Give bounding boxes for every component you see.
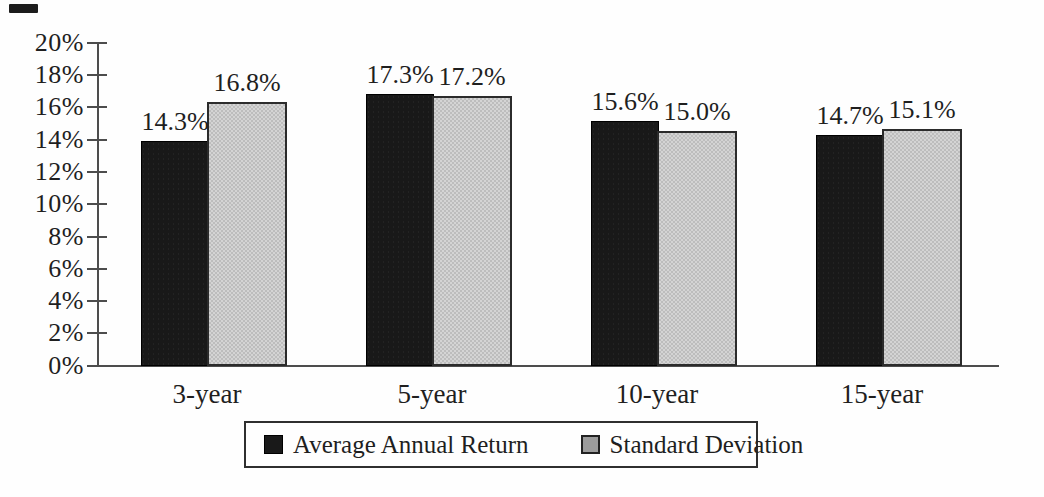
bar-standard-deviation-5-year — [432, 96, 512, 366]
legend-label: Average Annual Return — [293, 432, 529, 458]
y-tick-20- — [87, 42, 107, 44]
y-tick-8- — [87, 236, 107, 238]
y-tick-label-16-: 16% — [14, 94, 84, 120]
y-tick-14- — [87, 139, 107, 141]
bar-standard-deviation-10-year — [657, 131, 737, 367]
y-tick-6- — [87, 268, 107, 270]
y-tick-label-6-: 6% — [14, 256, 84, 282]
legend-item-average-annual-return: Average Annual Return — [264, 432, 529, 458]
bar-average-annual-return-5-year — [366, 94, 434, 366]
y-tick-label-20-: 20% — [14, 30, 84, 56]
y-tick-label-12-: 12% — [14, 159, 84, 185]
y-tick-2- — [87, 332, 107, 334]
bar-standard-deviation-15-year — [882, 129, 962, 366]
legend-label: Standard Deviation — [610, 432, 804, 458]
scan-artifact-mark — [9, 4, 38, 13]
value-label-average-annual-return-3-year: 14.3% — [141, 108, 208, 136]
value-label-average-annual-return-10-year: 15.6% — [591, 88, 658, 116]
y-tick-label-8-: 8% — [14, 224, 84, 250]
bar-standard-deviation-3-year — [207, 102, 287, 366]
black-square-icon — [264, 435, 283, 454]
y-tick-10- — [87, 203, 107, 205]
bar-average-annual-return-10-year — [591, 121, 659, 366]
x-category-label-3-year: 3-year — [173, 380, 242, 408]
value-label-standard-deviation-5-year: 17.2% — [438, 63, 505, 91]
value-label-standard-deviation-10-year: 15.0% — [663, 98, 730, 126]
scanned-bar-chart-figure: 20%18%16%14%12%10%8%6%4%2%0% 14.3%16.8%1… — [0, 0, 1044, 497]
bar-average-annual-return-3-year — [141, 141, 209, 366]
y-tick-label-0-: 0% — [14, 353, 84, 379]
y-tick-0- — [87, 365, 107, 367]
bar-average-annual-return-15-year — [816, 135, 884, 366]
x-category-label-10-year: 10-year — [616, 380, 698, 408]
legend-item-standard-deviation: Standard Deviation — [581, 432, 804, 458]
gray-square-icon — [581, 435, 600, 454]
y-tick-16- — [87, 106, 107, 108]
y-tick-18- — [87, 74, 107, 76]
value-label-standard-deviation-15-year: 15.1% — [888, 96, 955, 124]
y-tick-4- — [87, 300, 107, 302]
y-tick-12- — [87, 171, 107, 173]
chart-legend: Average Annual Return Standard Deviation — [244, 421, 758, 468]
value-label-average-annual-return-5-year: 17.3% — [366, 61, 433, 89]
x-category-label-15-year: 15-year — [841, 380, 923, 408]
x-category-label-5-year: 5-year — [398, 380, 467, 408]
value-label-standard-deviation-3-year: 16.8% — [213, 69, 280, 97]
value-label-average-annual-return-15-year: 14.7% — [816, 102, 883, 130]
y-tick-label-2-: 2% — [14, 320, 84, 346]
y-tick-label-4-: 4% — [14, 288, 84, 314]
y-tick-label-14-: 14% — [14, 127, 84, 153]
y-tick-label-18-: 18% — [14, 62, 84, 88]
y-tick-label-10-: 10% — [14, 191, 84, 217]
